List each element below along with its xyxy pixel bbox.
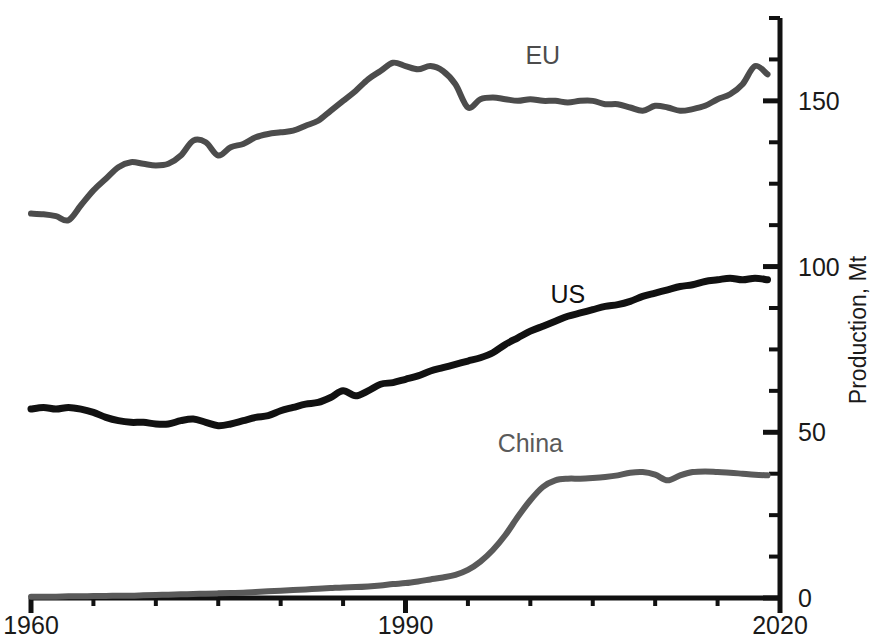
y-axis-tick-labels: 050100150 xyxy=(798,87,840,612)
series-line-us xyxy=(31,278,768,426)
data-series-group xyxy=(31,63,768,597)
y-tick-label: 150 xyxy=(798,87,840,115)
series-line-china xyxy=(31,471,768,596)
y-tick-label: 100 xyxy=(798,253,840,281)
y-axis-ticks xyxy=(763,18,780,598)
chart-figure: 196019902020 050100150 EUUSChina Product… xyxy=(0,0,893,642)
series-label-us: US xyxy=(550,280,585,308)
line-chart-canvas: 196019902020 050100150 EUUSChina Product… xyxy=(0,0,893,642)
y-tick-label: 50 xyxy=(798,418,826,446)
y-tick-label: 0 xyxy=(798,584,812,612)
y-axis-title: Production, Mt xyxy=(845,255,871,404)
series-label-eu: EU xyxy=(525,41,560,69)
series-label-china: China xyxy=(498,429,563,457)
figure-caption xyxy=(0,624,893,642)
series-line-eu xyxy=(31,63,768,221)
